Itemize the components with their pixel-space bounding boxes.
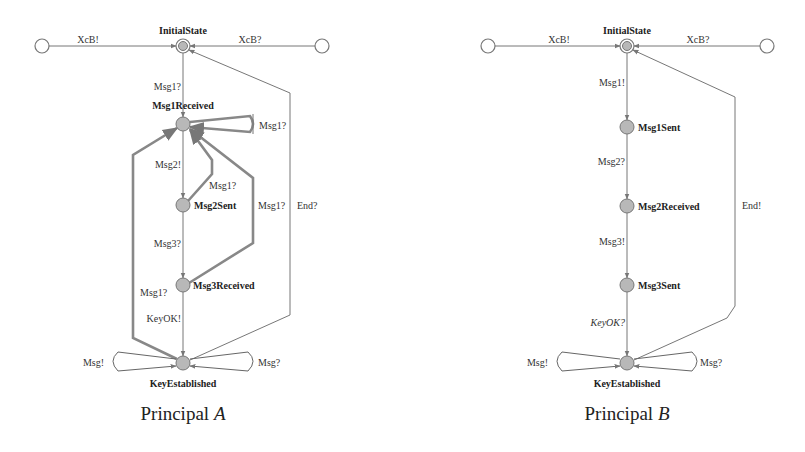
edge-label: Msg1?	[154, 81, 182, 92]
edge-label: Msg?	[258, 357, 281, 368]
edge-label: Msg!	[83, 357, 104, 368]
initial-state-node	[623, 42, 632, 51]
edge-label: KeyOK?	[590, 317, 625, 328]
edge-final-loop-left	[557, 352, 620, 371]
state-label-s1: Msg1Sent	[638, 122, 681, 133]
edge-final-loop-right	[190, 352, 253, 371]
start-node-left	[35, 39, 49, 53]
state-label-s3: Msg3Sent	[638, 280, 681, 291]
caption-principal-a: Principal A	[141, 403, 226, 424]
edge-label: Msg2!	[155, 159, 181, 170]
diagram-principal-b: InitialState XcB! XcB? Msg1! Msg2? Msg3!…	[481, 25, 774, 424]
state-node-s1	[176, 117, 190, 131]
state-label-initial: InitialState	[159, 25, 207, 36]
state-label-final: KeyEstablished	[150, 378, 217, 389]
edge-label: XcB?	[239, 34, 262, 45]
edge-label: Msg1?	[209, 180, 237, 191]
edge-label: Msg3?	[154, 238, 182, 249]
diagram-principal-a: InitialState XcB! XcB? Msg1? Msg2! Msg3?…	[35, 25, 329, 424]
edge-label: Msg1?	[258, 200, 286, 211]
edge-label: End!	[742, 200, 761, 211]
caption-principal-b: Principal B	[585, 403, 670, 424]
edge-label: Msg3!	[599, 236, 625, 247]
edge-s1-self-loop	[190, 116, 253, 132]
edge-label: XcB!	[548, 34, 570, 45]
state-label-initial: InitialState	[603, 25, 651, 36]
start-node-right	[315, 39, 329, 53]
state-node-final	[620, 356, 634, 370]
state-label-s2: Msg2Received	[638, 201, 700, 212]
start-node-right	[760, 39, 774, 53]
state-node-final	[176, 356, 190, 370]
state-label-final: KeyEstablished	[594, 378, 661, 389]
state-label-s1: Msg1Received	[152, 100, 214, 111]
state-machine-figure: InitialState XcB! XcB? Msg1? Msg2! Msg3?…	[0, 0, 805, 452]
edge-label: Msg1?	[259, 120, 287, 131]
edge-label: Msg1?	[140, 287, 168, 298]
initial-state-node	[179, 42, 188, 51]
state-node-s1	[620, 120, 634, 134]
edge-label: End?	[297, 200, 318, 211]
state-node-s3	[176, 278, 190, 292]
state-label-s2: Msg2Sent	[194, 200, 237, 211]
start-node-left	[481, 39, 495, 53]
state-node-s2	[176, 198, 190, 212]
edge-label: Msg1!	[599, 77, 625, 88]
state-node-s2	[620, 199, 634, 213]
edge-final-loop-right	[634, 352, 697, 371]
state-node-s3	[620, 278, 634, 292]
edge-label: XcB!	[77, 34, 99, 45]
edge-label: Msg?	[700, 357, 723, 368]
edge-label: Msg2?	[598, 156, 626, 167]
state-label-s3: Msg3Received	[193, 280, 255, 291]
edge-label: XcB?	[687, 34, 710, 45]
edge-label: Msg!	[527, 357, 548, 368]
edge-label: KeyOK!	[147, 313, 181, 324]
